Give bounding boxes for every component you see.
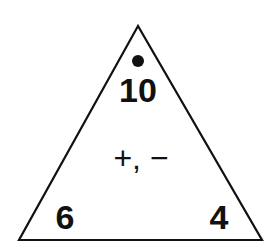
top-number: 10: [113, 73, 163, 107]
fact-triangle-diagram: 10 +, − 6 4: [0, 0, 275, 252]
operations-label: +, −: [96, 142, 186, 174]
bottom-left-number: 6: [50, 200, 80, 234]
bottom-right-number: 4: [204, 200, 234, 234]
top-dot-marker: [132, 55, 144, 67]
